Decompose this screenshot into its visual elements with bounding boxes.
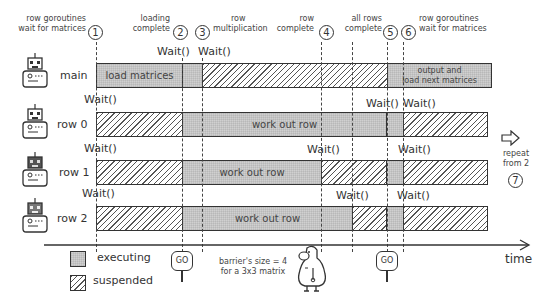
segment-executing: load matrices	[96, 63, 182, 88]
segment-executing	[386, 206, 403, 231]
step-6-marker: 6	[401, 25, 416, 40]
event-line-4	[321, 42, 322, 252]
wait-label-row0-3: Wait()	[403, 97, 436, 110]
repeat-arrow-icon	[501, 130, 521, 146]
row-label-row0: row 0	[57, 118, 88, 131]
segment-suspended	[96, 206, 182, 231]
step-2-marker: 2	[173, 25, 188, 40]
time-axis	[40, 238, 540, 252]
go-sign-icon: GO	[171, 251, 193, 271]
wait-label-row0-1: Wait()	[84, 93, 117, 106]
robot-row1-icon	[20, 151, 50, 189]
robot-row0-icon	[20, 103, 50, 141]
segment-suspended	[403, 112, 488, 137]
event-line-3	[202, 58, 203, 252]
step-1-marker: 1	[88, 25, 103, 40]
annotation-4-text: row complete	[272, 14, 314, 34]
go-sign-post	[386, 271, 388, 282]
annotation-1-text: row goroutines wait for matrices	[6, 14, 86, 34]
event-line-2	[182, 58, 183, 252]
segment-executing	[386, 160, 403, 185]
row-label-main: main	[60, 69, 87, 82]
annotation-3-text: row multiplication	[213, 14, 268, 34]
step-4-marker: 4	[319, 25, 334, 40]
segment-executing	[386, 112, 403, 137]
annotation-6-text: row goroutines wait for matrices	[419, 14, 487, 34]
robot-row2-icon	[20, 197, 50, 235]
event-line-5	[387, 42, 388, 252]
timeline-bar-row0: work out row	[96, 112, 488, 137]
wait-label-row2-1: Wait()	[82, 187, 115, 200]
event-line-1	[96, 42, 97, 252]
wait-label-row0-2: Wait()	[366, 97, 399, 110]
step-7-marker: 7	[508, 173, 523, 188]
wait-label-row1-2: Wait()	[307, 143, 340, 156]
timeline-bar-main: load matrices output and load next matri…	[96, 63, 492, 88]
segment-suspended	[403, 160, 488, 185]
annotation-5-text: all rows complete	[344, 14, 382, 34]
wait-label-row2-3: Wait()	[397, 189, 430, 202]
segment-suspended	[321, 160, 386, 185]
segment-suspended	[96, 160, 182, 185]
segment-executing: work out row	[182, 112, 386, 137]
legend-executing-label: executing	[97, 251, 151, 264]
go-sign-2: GO	[376, 251, 398, 283]
legend-executing-swatch	[70, 251, 86, 267]
wait-label-main-1: Wait()	[157, 45, 190, 58]
event-line-6	[403, 42, 404, 252]
step-5-marker: 5	[383, 25, 398, 40]
segment-executing: work out row	[182, 206, 352, 231]
robot-main-icon	[20, 52, 50, 90]
step-3-marker: 3	[195, 25, 210, 40]
segment-suspended	[202, 63, 387, 88]
segment-suspended	[96, 112, 182, 137]
row-label-row1: row 1	[59, 166, 90, 179]
go-sign-post	[181, 271, 183, 282]
timeline-bar-row2: work out row	[96, 206, 488, 231]
barrier-gatekeeper-icon	[293, 244, 331, 294]
legend-suspended-swatch	[70, 275, 86, 291]
repeat-note: repeat from 2	[496, 149, 536, 169]
go-sign-1: GO	[171, 251, 193, 283]
wait-label-row1-1: Wait()	[84, 142, 117, 155]
barrier-note: barrier's size = 4 for a 3x3 matrix	[218, 257, 288, 277]
event-line-4b	[352, 42, 353, 252]
annotation-2-text: loading complete	[130, 14, 170, 34]
wait-label-main-2: Wait()	[198, 45, 231, 58]
segment-suspended	[403, 206, 488, 231]
legend-suspended-label: suspended	[93, 274, 153, 287]
segment-executing	[182, 63, 202, 88]
row-label-row2: row 2	[57, 212, 88, 225]
timeline-bar-row1: work out row	[96, 160, 488, 185]
segment-suspended	[352, 206, 386, 231]
go-sign-icon: GO	[376, 251, 398, 271]
axis-label-time: time	[505, 252, 532, 266]
